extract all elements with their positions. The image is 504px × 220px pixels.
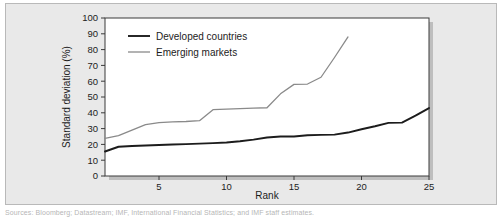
y-tick-label: 30 (87, 123, 98, 134)
chart-canvas: 0102030405060708090100 510152025 Develop… (0, 0, 504, 220)
y-tick-label: 70 (87, 60, 98, 71)
legend-label: Developed countries (156, 31, 247, 42)
y-tick-label: 10 (87, 155, 98, 166)
y-axis: 0102030405060708090100 (82, 12, 105, 181)
y-tick-label: 90 (87, 28, 98, 39)
x-axis-title: Rank (255, 190, 279, 201)
chart-figure: 0102030405060708090100 510152025 Develop… (0, 0, 504, 220)
legend-label: Emerging markets (156, 47, 237, 58)
y-axis-title: Standard deviation (%) (61, 46, 72, 148)
y-tick-label: 0 (93, 170, 98, 181)
y-tick-label: 80 (87, 44, 98, 55)
plot-area (105, 18, 429, 176)
y-tick-label: 100 (82, 12, 98, 23)
y-tick-label: 60 (87, 76, 98, 87)
x-tick-label: 5 (156, 181, 161, 192)
x-tick-label: 15 (289, 181, 300, 192)
figure-caption: Sources: Bloomberg; Datastream; IMF, Int… (5, 208, 405, 217)
y-tick-label: 20 (87, 139, 98, 150)
x-tick-label: 25 (424, 181, 435, 192)
y-tick-label: 40 (87, 107, 98, 118)
y-tick-label: 50 (87, 91, 98, 102)
x-tick-label: 10 (221, 181, 232, 192)
x-tick-label: 20 (356, 181, 367, 192)
